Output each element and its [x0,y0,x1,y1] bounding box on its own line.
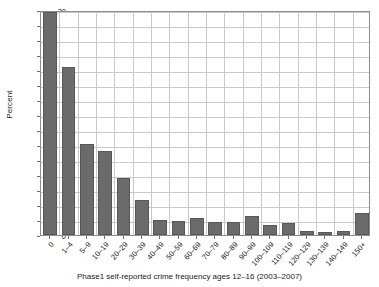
bar-chart: Percent 024681012141618202224262830 01–4… [0,0,379,287]
gridline-vertical [78,12,79,235]
x-tick-mark [233,236,234,239]
x-tick-mark [159,236,160,239]
bar [355,213,369,236]
bar [98,151,112,235]
x-tick-mark [141,236,142,239]
bar [62,67,76,235]
x-tick-mark [196,236,197,239]
x-axis-title: Phase1 self-reported crime frequency age… [0,272,379,281]
bar [172,221,186,235]
gridline-horizontal [41,132,369,133]
bar [80,144,94,236]
x-tick-mark [361,236,362,239]
x-tick-mark [123,236,124,239]
gridline-vertical [59,12,60,235]
plot-area [40,11,370,236]
x-tick-mark [306,236,307,239]
gridline-horizontal [41,27,369,28]
x-tick-mark [214,236,215,239]
x-tick-mark [269,236,270,239]
bar [153,220,167,235]
gridline-vertical [334,12,335,235]
gridline-vertical [206,12,207,235]
x-tick-mark [288,236,289,239]
gridline-vertical [169,12,170,235]
bar [117,178,131,235]
x-tick-mark [343,236,344,239]
gridline-vertical [224,12,225,235]
bar [337,231,351,236]
gridline-horizontal [41,87,369,88]
x-tick-mark [324,236,325,239]
gridline-vertical [261,12,262,235]
gridline-horizontal [41,117,369,118]
bar [245,216,259,236]
bar [135,200,149,235]
x-tick-mark [178,236,179,239]
bar [43,12,57,236]
gridline-vertical [279,12,280,235]
x-tick-mark [49,236,50,239]
y-tick-mark [37,236,40,237]
gridline-vertical [298,12,299,235]
bar [318,232,332,235]
bar [300,231,314,236]
bar [227,222,241,236]
gridline-horizontal [41,102,369,103]
gridline-horizontal [41,72,369,73]
gridline-vertical [353,12,354,235]
x-tick-mark [104,236,105,239]
bar [282,223,296,235]
bar [208,222,222,236]
gridline-vertical [96,12,97,235]
gridline-vertical [316,12,317,235]
x-tick-mark [251,236,252,239]
gridline-vertical [133,12,134,235]
gridline-horizontal [41,57,369,58]
gridline-vertical [188,12,189,235]
x-tick-mark [86,236,87,239]
gridline-vertical [151,12,152,235]
y-axis-title: Percent [5,70,14,140]
gridline-horizontal [41,42,369,43]
bar [263,225,277,236]
gridline-vertical [114,12,115,235]
bar [190,218,204,235]
x-tick-mark [68,236,69,239]
gridline-vertical [243,12,244,235]
gridline-horizontal [41,12,369,13]
